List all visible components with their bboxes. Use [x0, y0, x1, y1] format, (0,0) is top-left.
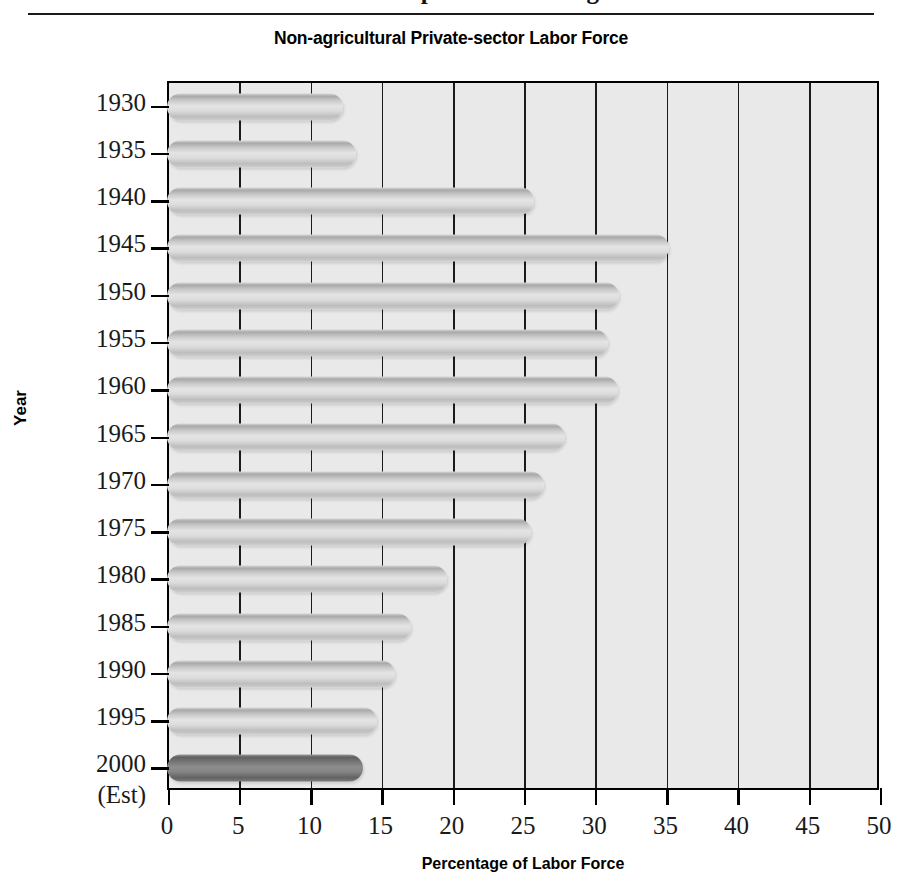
x-tick-label-30: 30 — [564, 812, 624, 840]
bar-row-1940 — [169, 178, 877, 225]
y-tick-label-2000: 2000 — [26, 750, 146, 778]
x-tick-label-0: 0 — [137, 812, 197, 840]
y-tick-label-1955: 1955 — [26, 325, 146, 353]
bar-1980 — [167, 566, 447, 593]
x-tick-10 — [310, 788, 313, 805]
x-tick-15 — [381, 788, 384, 805]
y-tick-1940 — [151, 200, 169, 203]
clipped-header-text: Union Membership as a Percentage of the — [0, 0, 902, 5]
bar-row-1985 — [169, 603, 877, 650]
clipped-page-header: Union Membership as a Percentage of the — [0, 0, 902, 13]
bar-1955 — [167, 329, 608, 356]
y-axis-tick-labels: 1930193519401945195019551960196519701975… — [22, 81, 146, 790]
y-tick-1990 — [151, 673, 169, 676]
y-tick-label-1975: 1975 — [26, 514, 146, 542]
x-tick-25 — [524, 788, 527, 805]
bar-row-1970 — [169, 461, 877, 508]
x-tick-30 — [595, 788, 598, 805]
y-tick-1960 — [151, 389, 169, 392]
x-axis-title: Percentage of Labor Force — [167, 855, 879, 873]
y-tick-1975 — [151, 531, 169, 534]
bar-row-1965 — [169, 414, 877, 461]
bar-row-1975 — [169, 508, 877, 555]
bar-1960 — [167, 377, 618, 404]
bar-1935 — [167, 140, 356, 167]
y-tick-1950 — [151, 295, 169, 298]
y-tick-label-1950: 1950 — [26, 278, 146, 306]
y-tick-label-1940: 1940 — [26, 183, 146, 211]
bar-1995 — [167, 708, 377, 735]
x-tick-35 — [666, 788, 669, 805]
bar-row-1980 — [169, 556, 877, 603]
y-tick-1985 — [151, 626, 169, 629]
bar-1990 — [167, 660, 395, 687]
x-tick-label-15: 15 — [351, 812, 411, 840]
y-tick-label-1945: 1945 — [26, 230, 146, 258]
bar-row-1990 — [169, 650, 877, 697]
x-tick-45 — [809, 788, 812, 805]
y-tick-label-1990: 1990 — [26, 656, 146, 684]
header-divider-rule — [28, 13, 874, 15]
x-tick-40 — [737, 788, 740, 805]
x-tick-20 — [453, 788, 456, 805]
bar-row-1935 — [169, 130, 877, 177]
y-tick-1930 — [151, 106, 169, 109]
y-tick-1965 — [151, 437, 169, 440]
y-tick-label-1965: 1965 — [26, 420, 146, 448]
bar-1965 — [167, 424, 565, 451]
y-tick-label-1930: 1930 — [26, 89, 146, 117]
y-tick-1935 — [151, 153, 169, 156]
y-tick-label-1980: 1980 — [26, 561, 146, 589]
y-tick-sublabel-2000: (Est) — [26, 781, 146, 809]
bar-row-2000 — [169, 745, 877, 792]
x-tick-50 — [880, 788, 883, 805]
bar-1945 — [167, 235, 669, 262]
y-tick-label-1970: 1970 — [26, 467, 146, 495]
y-tick-1970 — [151, 484, 169, 487]
bar-1940 — [167, 188, 534, 215]
y-tick-label-1985: 1985 — [26, 609, 146, 637]
bar-1985 — [167, 613, 411, 640]
y-tick-2000 — [151, 767, 169, 770]
y-tick-1980 — [151, 578, 169, 581]
bar-1950 — [167, 282, 619, 309]
bar-1970 — [167, 471, 544, 498]
bar-row-1995 — [169, 697, 877, 744]
x-axis-tick-labels: 05101520253035404550 — [167, 812, 879, 844]
chart-plot-area — [167, 81, 879, 790]
bar-1930 — [167, 93, 343, 120]
x-tick-label-5: 5 — [208, 812, 268, 840]
chart-title: Non-agricultural Private-sector Labor Fo… — [0, 28, 902, 49]
y-tick-1955 — [151, 342, 169, 345]
bar-row-1950 — [169, 272, 877, 319]
x-tick-label-25: 25 — [493, 812, 553, 840]
bar-row-1960 — [169, 367, 877, 414]
x-tick-label-50: 50 — [849, 812, 902, 840]
x-tick-label-40: 40 — [707, 812, 767, 840]
y-tick-label-1935: 1935 — [26, 136, 146, 164]
y-tick-label-1960: 1960 — [26, 372, 146, 400]
x-tick-label-35: 35 — [635, 812, 695, 840]
bar-1975 — [167, 519, 531, 546]
x-tick-0 — [168, 788, 171, 805]
x-tick-5 — [239, 788, 242, 805]
bar-row-1955 — [169, 319, 877, 366]
bar-row-1945 — [169, 225, 877, 272]
y-tick-label-1995: 1995 — [26, 703, 146, 731]
bar-2000 — [167, 755, 363, 782]
x-tick-label-10: 10 — [279, 812, 339, 840]
y-tick-1995 — [151, 720, 169, 723]
y-tick-1945 — [151, 247, 169, 250]
y-axis-title: Year — [11, 363, 31, 453]
x-tick-label-20: 20 — [422, 812, 482, 840]
bar-row-1930 — [169, 83, 877, 130]
x-tick-label-45: 45 — [778, 812, 838, 840]
